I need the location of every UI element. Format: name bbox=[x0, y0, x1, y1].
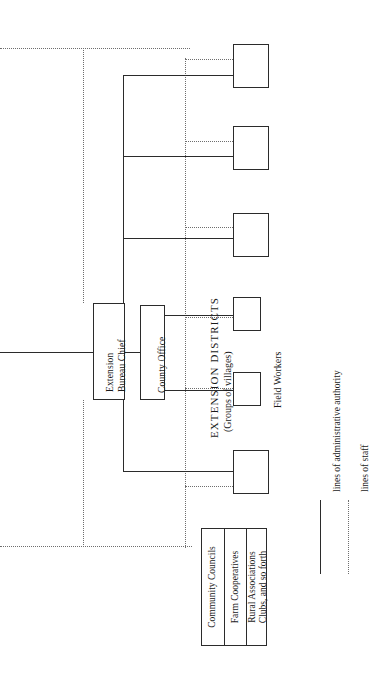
list-item-line1: Rural Associations bbox=[246, 551, 257, 623]
authority-branch-district-6 bbox=[123, 471, 233, 472]
staff-stub-district-1 bbox=[185, 59, 233, 60]
list-item-label: Farm Cooperatives bbox=[230, 551, 241, 624]
legend-label-staff-lines: lines of staff bbox=[360, 445, 370, 492]
legend-label-administrative-authority: lines of administrative authority bbox=[332, 370, 342, 492]
node-district-box-2[interactable] bbox=[233, 126, 269, 170]
node-extension-bureau-chief[interactable]: Extension Bureau Chief bbox=[93, 303, 125, 400]
node-label-county-office: County Office bbox=[157, 337, 167, 393]
legend: lines of administrative authority lines … bbox=[306, 404, 370, 668]
authority-branch-district-3 bbox=[123, 238, 233, 239]
label-field-workers: Field Workers bbox=[272, 351, 283, 408]
list-item-line2: Clubs, and so forth bbox=[258, 551, 269, 623]
staff-stub-district-3 bbox=[185, 227, 233, 228]
legend-swatch-solid-line bbox=[320, 500, 321, 574]
list-item-rural-associations[interactable]: Rural Associations Clubs, and so forth bbox=[246, 529, 268, 645]
staff-line-district-spine bbox=[185, 58, 186, 548]
authority-line-incoming bbox=[0, 352, 93, 353]
list-item-label: Rural Associations Clubs, and so forth bbox=[246, 551, 268, 623]
staff-line-top-rail bbox=[0, 48, 190, 49]
list-item-label: Community Councils bbox=[207, 546, 218, 628]
authority-spine-main bbox=[123, 75, 124, 472]
local-organizations-group: Community Councils Farm Cooperatives Rur… bbox=[201, 528, 267, 646]
list-item-line1: Community Councils bbox=[207, 546, 217, 628]
node-district-box-1[interactable] bbox=[233, 44, 269, 88]
legend-swatch-dotted-line bbox=[348, 500, 349, 574]
staff-stub-district-6 bbox=[185, 486, 233, 487]
org-chart-canvas: Extension Bureau Chief County Office EXT… bbox=[0, 0, 370, 676]
node-label-bureau-chief-line1: Extension bbox=[105, 353, 115, 392]
staff-line-bottom-rail bbox=[0, 546, 192, 547]
node-district-box-5[interactable] bbox=[233, 372, 261, 406]
staff-line-lower-spine bbox=[83, 400, 84, 547]
authority-branch-district-1 bbox=[123, 75, 233, 76]
node-county-office[interactable]: County Office bbox=[140, 305, 165, 400]
staff-line-chief-spine bbox=[83, 48, 84, 303]
list-item-line1: Farm Cooperatives bbox=[230, 551, 240, 624]
label-extension-districts-line1: EXTENSION DISTRICTS bbox=[208, 297, 220, 438]
label-extension-districts-line2: (Groups of villages) bbox=[222, 351, 233, 432]
list-item-community-councils[interactable]: Community Councils bbox=[202, 529, 224, 645]
node-district-box-6[interactable] bbox=[233, 450, 269, 494]
node-label-bureau-chief-line2: Bureau Chief bbox=[117, 339, 127, 392]
node-district-box-4[interactable] bbox=[233, 297, 261, 331]
list-item-farm-cooperatives[interactable]: Farm Cooperatives bbox=[224, 529, 246, 645]
staff-stub-district-2 bbox=[185, 141, 233, 142]
node-district-box-3[interactable] bbox=[233, 213, 269, 257]
authority-branch-district-2 bbox=[123, 156, 233, 157]
